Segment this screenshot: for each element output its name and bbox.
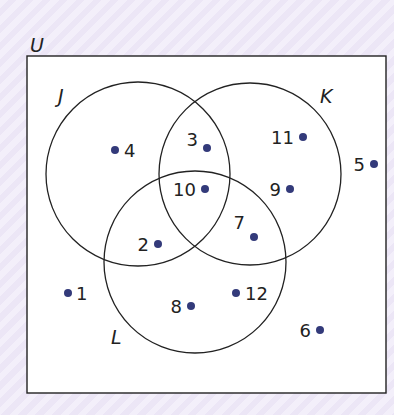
element-dot: [232, 289, 240, 297]
element-label: 8: [171, 296, 182, 317]
element-label: 11: [271, 127, 294, 148]
element-label: 10: [173, 179, 196, 200]
element-label: 9: [270, 179, 281, 200]
element-label: 6: [300, 320, 311, 341]
element-label: 2: [138, 234, 149, 255]
element-dot: [64, 289, 72, 297]
element-dot: [299, 133, 307, 141]
element-dot: [250, 233, 258, 241]
element-dot: [370, 160, 378, 168]
set-label-l: L: [111, 326, 122, 348]
element-dot: [201, 185, 209, 193]
element-dot: [286, 185, 294, 193]
element-dot: [154, 240, 162, 248]
element-dot: [316, 326, 324, 334]
element-label: 5: [354, 154, 365, 175]
element-dot: [187, 302, 195, 310]
venn-diagram: U JKL 123456789101112: [0, 0, 394, 415]
universal-set-label: U: [30, 34, 44, 56]
element-label: 12: [245, 283, 268, 304]
element-label: 4: [124, 140, 135, 161]
element-dot: [111, 146, 119, 154]
element-label: 7: [234, 212, 245, 233]
element-dot: [203, 144, 211, 152]
set-label-k: K: [320, 85, 334, 107]
element-label: 1: [76, 283, 87, 304]
element-label: 3: [187, 129, 198, 150]
